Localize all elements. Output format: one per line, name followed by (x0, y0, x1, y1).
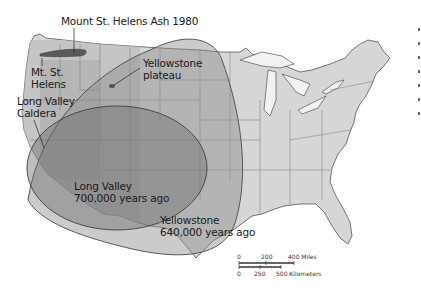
label-long-valley-700k-line1: Long Valley (74, 180, 169, 192)
ash-fall-map (0, 0, 421, 295)
label-long-valley-700k-line2: 700,000 years ago (74, 192, 169, 204)
label-mt-st-helens-line2: Helens (31, 78, 66, 90)
label-mt-st-helens-line1: Mt. St. (31, 66, 66, 78)
label-long-valley-700k: Long Valley 700,000 years ago (74, 180, 169, 204)
scale-km-500: 500 Kilometers (276, 270, 321, 277)
label-long-valley-caldera: Long Valley Caldera (17, 95, 75, 119)
label-yellowstone-plateau: Yellowstone plateau (143, 57, 202, 81)
scale-km-0: 0 (237, 270, 241, 277)
scale-bar: 0 200 400 Miles 0 250 500 Kilometers (237, 253, 357, 283)
label-yellowstone-640k: Yellowstone 640,000 years ago (160, 214, 255, 238)
long-valley-ash-extent (27, 106, 207, 230)
label-yellowstone-plateau-line1: Yellowstone (143, 57, 202, 69)
scale-bar-lines (237, 253, 357, 283)
label-mt-st-helens: Mt. St. Helens (31, 66, 66, 90)
label-long-valley-caldera-line1: Long Valley (17, 95, 75, 107)
scale-km-250: 250 (254, 270, 265, 277)
label-long-valley-caldera-line2: Caldera (17, 107, 75, 119)
label-yellowstone-plateau-line2: plateau (143, 69, 202, 81)
label-yellowstone-640k-line1: Yellowstone (160, 214, 255, 226)
label-yellowstone-640k-line2: 640,000 years ago (160, 226, 255, 238)
label-st-helens-ash-1980: Mount St. Helens Ash 1980 (61, 15, 198, 27)
